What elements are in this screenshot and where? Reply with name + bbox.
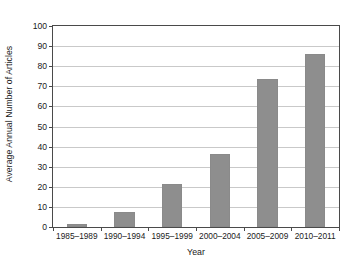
y-tick-label: 100 [33, 21, 47, 31]
x-tick-label: 2010–2011 [295, 231, 336, 241]
y-tick-label: 20 [37, 182, 47, 192]
x-axis-title-text: Year [187, 247, 205, 257]
y-axis-title: Average Annual Number of Articles [0, 0, 18, 228]
y-tick-label: 0 [42, 222, 47, 232]
y-tick-label: 30 [37, 162, 47, 172]
bar [162, 184, 182, 227]
y-tick-label: 90 [37, 41, 47, 51]
bar [305, 54, 325, 227]
x-axis-title: Year [52, 247, 340, 257]
bar [210, 154, 230, 227]
x-axis-tick-labels: 1985–19891990–19941995–19992000–20042005… [52, 231, 340, 245]
x-tick-label: 1985–1989 [56, 231, 98, 241]
y-tick-label: 10 [37, 202, 47, 212]
bar [257, 79, 277, 227]
bar-chart-figure: Average Annual Number of Articles 010203… [0, 0, 356, 275]
y-tick-label: 40 [37, 142, 47, 152]
x-tick-label: 1995–1999 [151, 231, 193, 241]
x-tick-label: 2005–2009 [247, 231, 289, 241]
y-tick-label: 80 [37, 61, 47, 71]
x-tick-label: 2000–2004 [199, 231, 241, 241]
y-tick-label: 60 [37, 101, 47, 111]
y-tick-label: 50 [37, 122, 47, 132]
bar-series [53, 26, 339, 227]
plot-area: 0102030405060708090100 [52, 25, 340, 228]
bar [67, 224, 87, 227]
x-tick-label: 1990–1994 [104, 231, 146, 241]
y-axis-title-text: Average Annual Number of Articles [4, 46, 14, 182]
bar [114, 212, 134, 227]
y-tick-label: 70 [37, 81, 47, 91]
